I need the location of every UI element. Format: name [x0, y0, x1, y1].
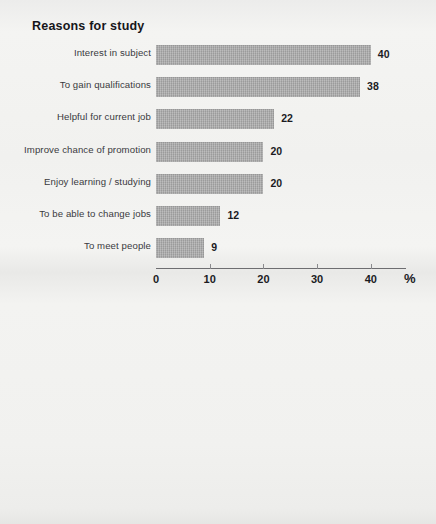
bar-track	[156, 174, 263, 194]
x-axis-tick-label: 0	[153, 273, 159, 285]
x-axis-tick-label: 20	[257, 273, 269, 285]
bar-fill	[156, 77, 360, 97]
bar-row: To meet people9	[0, 238, 436, 258]
bar-track	[156, 77, 360, 97]
bar-value-label: 22	[281, 112, 293, 124]
bar-row: Improve chance of promotion20	[0, 142, 436, 162]
bar-category-label: To gain qualifications	[0, 79, 151, 90]
bar-fill	[156, 174, 263, 194]
x-axis-unit-label: %	[404, 271, 416, 286]
bar-value-label: 20	[270, 145, 282, 157]
bar-row: To be able to change jobs12	[0, 206, 436, 226]
bar-track	[156, 109, 274, 129]
x-axis-tick	[317, 264, 318, 269]
bar-chart-title: Reasons for study	[32, 19, 144, 33]
bar-value-label: 20	[270, 177, 282, 189]
bar-category-label: To meet people	[0, 240, 151, 251]
x-axis-tick-label: 40	[365, 273, 377, 285]
x-axis-tick	[263, 264, 264, 269]
x-axis-tick	[371, 264, 372, 269]
bar-value-label: 9	[211, 241, 217, 253]
x-axis-tick-label: 10	[204, 273, 216, 285]
bar-fill	[156, 45, 371, 65]
bar-track	[156, 206, 220, 226]
x-axis-tick	[210, 264, 211, 269]
bar-track	[156, 238, 204, 258]
bar-row: To gain qualifications38	[0, 77, 436, 97]
bar-chart-panel: Reasons for study Interest in subject40T…	[0, 0, 436, 300]
bar-row: Enjoy learning / studying20	[0, 174, 436, 194]
bar-value-label: 12	[227, 209, 239, 221]
x-axis-tick-label: 30	[311, 273, 323, 285]
bar-category-label: Enjoy learning / studying	[0, 176, 151, 187]
bar-category-label: Improve chance of promotion	[0, 144, 151, 155]
figure-page: Reasons for study Interest in subject40T…	[0, 0, 436, 524]
bar-track	[156, 45, 371, 65]
bar-category-label: To be able to change jobs	[0, 208, 151, 219]
bar-row: Helpful for current job22	[0, 109, 436, 129]
bar-row: Interest in subject40	[0, 45, 436, 65]
bar-fill	[156, 206, 220, 226]
x-axis-line	[156, 268, 406, 269]
bar-fill	[156, 238, 204, 258]
bar-value-label: 38	[367, 80, 379, 92]
bar-fill	[156, 142, 263, 162]
bar-category-label: Interest in subject	[0, 47, 151, 58]
bar-value-label: 40	[378, 48, 390, 60]
bar-track	[156, 142, 263, 162]
bar-fill	[156, 109, 274, 129]
bar-category-label: Helpful for current job	[0, 111, 151, 122]
